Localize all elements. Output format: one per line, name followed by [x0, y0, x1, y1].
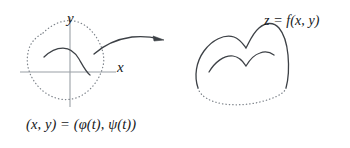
- surface-interior-curve: [209, 52, 274, 72]
- surface-top-outline: [196, 24, 289, 89]
- mapping-arrowhead: [153, 36, 164, 41]
- figure-root: y x z = f(x, y) (x, y) = (φ(t), ψ(t)): [0, 0, 350, 148]
- surface-bottom-outline-dotted: [198, 88, 286, 105]
- domain-interior-curve: [44, 48, 90, 75]
- surface-equation-label: z = f(x, y): [264, 14, 320, 28]
- axis-label-x: x: [117, 60, 124, 75]
- mapping-arrow: [94, 36, 164, 54]
- domain-boundary-dotted: [27, 21, 104, 100]
- left-domain-panel: [20, 17, 116, 107]
- parametrization-label: (x, y) = (φ(t), ψ(t)): [26, 117, 136, 132]
- mapping-arrow-shaft: [94, 37, 159, 54]
- right-surface-panel: [196, 24, 289, 105]
- axis-label-y: y: [67, 11, 74, 26]
